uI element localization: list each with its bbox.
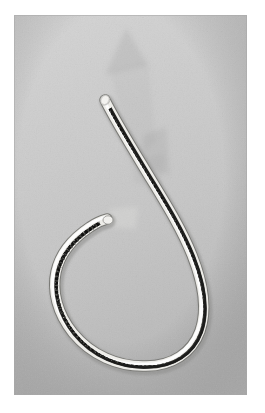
specimen-photograph [14, 15, 247, 395]
figure-root [0, 0, 265, 413]
film-grain-overlay [14, 15, 247, 395]
photograph-canvas [14, 15, 247, 395]
